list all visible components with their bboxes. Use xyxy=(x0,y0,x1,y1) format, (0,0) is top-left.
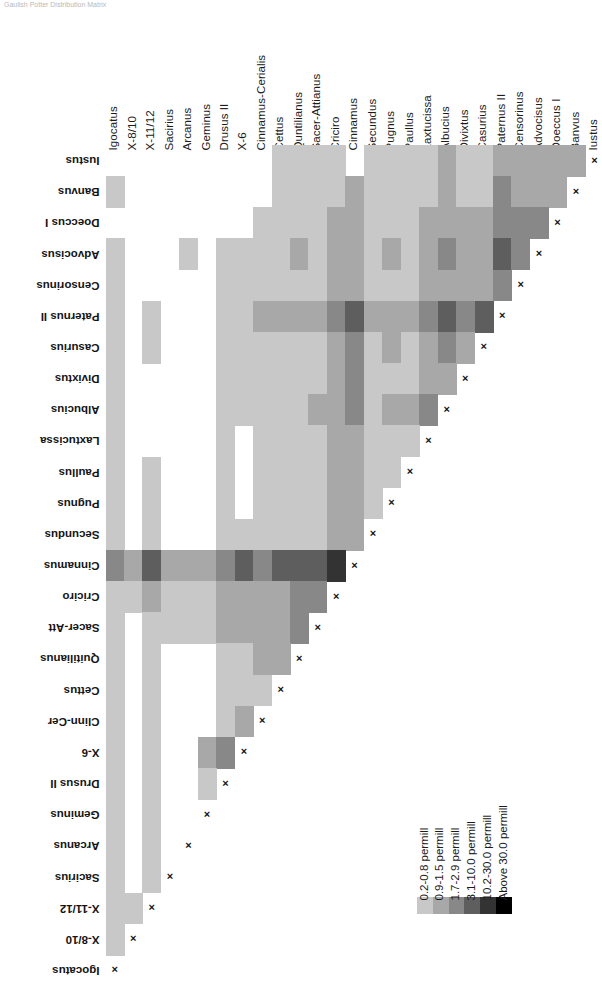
heatmap-cell xyxy=(493,145,512,177)
diagonal-marker: × xyxy=(567,186,585,197)
heatmap-cell xyxy=(438,332,457,364)
heatmap-cell xyxy=(106,394,125,426)
heatmap-cell xyxy=(142,830,161,862)
heatmap-cell xyxy=(290,488,309,520)
heatmap-cell xyxy=(253,207,272,239)
heatmap-cell xyxy=(308,270,327,302)
heatmap-cell xyxy=(419,145,438,177)
heatmap-cell xyxy=(253,519,272,551)
heatmap-cell xyxy=(235,332,254,364)
heatmap-cell xyxy=(253,581,272,613)
diagonal-marker: × xyxy=(493,310,511,321)
heatmap-cell xyxy=(308,519,327,551)
heatmap-cell xyxy=(272,457,291,489)
heatmap-cell xyxy=(179,238,198,270)
heatmap-cell xyxy=(253,425,272,457)
heatmap-cell xyxy=(401,363,420,395)
heatmap-cell xyxy=(235,301,254,333)
heatmap-cell xyxy=(419,207,438,239)
heatmap-cell xyxy=(272,643,291,675)
heatmap-cell xyxy=(142,457,161,489)
heatmap-cell xyxy=(142,612,161,644)
heatmap-cell xyxy=(475,270,494,302)
heatmap-cell xyxy=(382,270,401,302)
heatmap-cell xyxy=(382,176,401,208)
heatmap-cell xyxy=(106,643,125,675)
heatmap-cell xyxy=(106,550,125,582)
heatmap-cell xyxy=(161,581,180,613)
diagonal-marker: × xyxy=(530,248,548,259)
heatmap-cell xyxy=(290,176,309,208)
heatmap-cell xyxy=(345,207,364,239)
heatmap-cell xyxy=(235,612,254,644)
heatmap-cell xyxy=(253,270,272,302)
heatmap-cell xyxy=(253,332,272,364)
heatmap-cell xyxy=(530,176,549,208)
diagonal-marker: × xyxy=(419,435,437,446)
heatmap-cell xyxy=(106,706,125,738)
diagonal-marker: × xyxy=(272,684,290,695)
heatmap-cell xyxy=(327,488,346,520)
heatmap-cell xyxy=(345,488,364,520)
legend-label-2: 1.7-2.9 permill xyxy=(450,828,462,901)
heatmap-cell xyxy=(475,238,494,270)
heatmap-cell xyxy=(327,394,346,426)
heatmap-cell xyxy=(401,301,420,333)
heatmap-cell xyxy=(142,332,161,364)
heatmap-cell xyxy=(106,488,125,520)
heatmap-cell xyxy=(345,425,364,457)
heatmap-cell xyxy=(272,301,291,333)
heatmap-cell xyxy=(253,612,272,644)
heatmap-cell xyxy=(216,332,235,364)
diagonal-marker: × xyxy=(308,622,326,633)
heatmap-cell xyxy=(419,238,438,270)
diagonal-marker: × xyxy=(401,466,419,477)
heatmap-cell xyxy=(216,238,235,270)
diagonal-marker: × xyxy=(327,591,345,602)
heatmap-cell xyxy=(272,238,291,270)
heatmap-cell xyxy=(345,238,364,270)
heatmap-cell xyxy=(419,332,438,364)
heatmap-cell xyxy=(493,176,512,208)
diagonal-marker: × xyxy=(511,279,529,290)
heatmap-cell xyxy=(216,612,235,644)
heatmap-cell xyxy=(364,207,383,239)
heatmap-cell xyxy=(327,145,346,177)
heatmap-cell xyxy=(253,238,272,270)
heatmap-cell xyxy=(456,176,475,208)
diagonal-marker: × xyxy=(179,840,197,851)
heatmap-cell xyxy=(364,394,383,426)
heatmap-cell xyxy=(308,581,327,613)
heatmap-cell xyxy=(272,550,291,582)
heatmap-cell xyxy=(216,425,235,457)
heatmap-cell xyxy=(290,238,309,270)
heatmap-cell xyxy=(253,301,272,333)
heatmap-cell xyxy=(327,301,346,333)
heatmap-cell xyxy=(106,270,125,302)
heatmap-cell xyxy=(327,425,346,457)
heatmap-cell xyxy=(106,612,125,644)
heatmap-cell xyxy=(438,145,457,177)
heatmap-cell xyxy=(161,550,180,582)
legend-label-1: 0.9-1.5 permill xyxy=(434,828,446,901)
heatmap-cell xyxy=(106,238,125,270)
heatmap-cell xyxy=(216,363,235,395)
heatmap-cell xyxy=(216,581,235,613)
heatmap-cell xyxy=(511,207,530,239)
heatmap-cell xyxy=(272,425,291,457)
heatmap-cell xyxy=(106,768,125,800)
heatmap-cell xyxy=(364,457,383,489)
heatmap-cell xyxy=(272,332,291,364)
heatmap-cell xyxy=(142,581,161,613)
heatmap-cell xyxy=(179,612,198,644)
heatmap-cell xyxy=(290,425,309,457)
heatmap-cell xyxy=(308,363,327,395)
heatmap-cell xyxy=(142,768,161,800)
heatmap-cell xyxy=(364,301,383,333)
diagonal-marker: × xyxy=(161,871,179,882)
heatmap-cell xyxy=(235,394,254,426)
heatmap-cell xyxy=(290,519,309,551)
heatmap-cell xyxy=(493,207,512,239)
heatmap-cell xyxy=(290,612,309,644)
heatmap-cell xyxy=(290,363,309,395)
